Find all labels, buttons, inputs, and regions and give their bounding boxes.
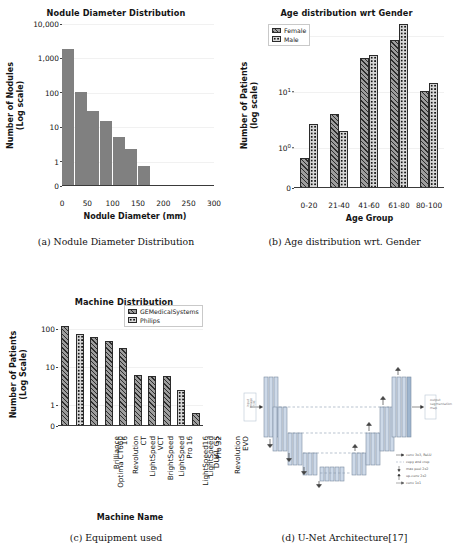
chart-a-bar bbox=[75, 92, 87, 186]
chart-a-bar bbox=[100, 121, 112, 186]
chart-c-ytick: 1 bbox=[50, 401, 58, 410]
chart-a-ytick: 10,000 bbox=[33, 20, 62, 29]
chart-age-gender: Age distribution wrt Gender Number of Pa… bbox=[232, 0, 457, 232]
legend-entry-female: Female bbox=[272, 27, 306, 34]
chart-a-bar bbox=[62, 49, 74, 187]
chart-a-xtick: 50 bbox=[83, 196, 92, 200]
chart-a-xtick: 0 bbox=[60, 196, 65, 200]
chart-b-bar-female bbox=[300, 158, 309, 188]
chart-c-bar bbox=[177, 390, 185, 426]
chart-a-ylabel: Number of Nodules (Log scale) bbox=[6, 51, 25, 161]
chart-b-xtick: 21-40 bbox=[328, 198, 349, 203]
unet-svg: input image tile output segmentation map… bbox=[240, 363, 454, 495]
legend-label-male: Male bbox=[284, 36, 299, 43]
chart-b-legend: Female Male bbox=[268, 24, 310, 46]
chart-b-ylabel: Number of Patients (log scale) bbox=[240, 51, 259, 161]
chart-c-xlabel: Machine Name bbox=[40, 513, 220, 522]
chart-c-ytick: 10 bbox=[46, 363, 58, 372]
chart-nodule-diameter: Nodule Diameter Distribution Number of N… bbox=[0, 0, 232, 232]
chart-machine-distribution: Machine Distribution Number of Patients … bbox=[0, 285, 232, 535]
chart-a-bar bbox=[113, 137, 125, 186]
chart-b-xtick: 80-100 bbox=[416, 198, 442, 203]
chart-a-bar bbox=[138, 166, 150, 187]
chart-b-ytick: 0 bbox=[286, 184, 294, 193]
panel-b-age-gender: Age distribution wrt Gender Number of Pa… bbox=[232, 0, 457, 250]
legend-swatch-ge-icon bbox=[128, 309, 137, 315]
legend-entry-philips: Philips bbox=[128, 317, 199, 324]
chart-b-xtick: 41-60 bbox=[358, 198, 379, 203]
unet-legend-conv11: conv 1x1 bbox=[406, 481, 421, 485]
chart-b-xtick: 0-20 bbox=[301, 198, 318, 203]
chart-a-ytick: 1 bbox=[54, 157, 62, 166]
chart-b-ytick-exp: 1 bbox=[288, 87, 291, 93]
unet-input-label-line3: tile bbox=[252, 400, 256, 405]
chart-b-bar-male bbox=[339, 131, 348, 188]
chart-c-ylabel: Number of Patients (Log Scale) bbox=[9, 320, 28, 430]
chart-a-xtick: 250 bbox=[182, 196, 196, 200]
chart-a-xtick: 200 bbox=[156, 196, 170, 200]
chart-a-ytick: 100 bbox=[45, 88, 62, 97]
chart-b-bar-female bbox=[390, 40, 399, 188]
panel-b-caption: (b) Age distribution wrt. Gender bbox=[232, 236, 457, 247]
unet-legend-upconv: up-conv 2x2 bbox=[406, 474, 426, 478]
chart-c-xtick: LightSpeedVCT bbox=[149, 436, 164, 476]
chart-c-bar bbox=[134, 375, 142, 426]
chart-c-xtick: DUAL GS bbox=[213, 436, 221, 468]
chart-c-bar bbox=[119, 348, 127, 426]
chart-a-ylabel-line2: (Log scale) bbox=[15, 51, 25, 161]
unet-architecture-diagram: input image tile output segmentation map… bbox=[240, 363, 454, 495]
chart-a-bars bbox=[62, 24, 214, 186]
panel-c-caption: (c) Equipment used bbox=[0, 532, 232, 543]
chart-b-bar-male bbox=[429, 83, 438, 188]
chart-a-ytick: 1,000 bbox=[38, 54, 62, 63]
chart-c-ylabel-line2: (Log Scale) bbox=[18, 320, 28, 430]
chart-a-bar bbox=[125, 149, 137, 186]
chart-c-xtick: BrightSpeed bbox=[168, 436, 176, 480]
panel-a-nodule-diameter: Nodule Diameter Distribution Number of N… bbox=[0, 0, 232, 250]
chart-b-bar-female bbox=[420, 91, 429, 188]
chart-c-bar bbox=[163, 376, 171, 426]
chart-a-xtick: 300 bbox=[207, 196, 221, 200]
figure-grid: Nodule Diameter Distribution Number of N… bbox=[0, 0, 457, 559]
unet-legend-copycrop: copy and crop bbox=[406, 460, 429, 464]
legend-swatch-male-icon bbox=[272, 36, 281, 42]
panel-c-machine-distribution: Machine Distribution Number of Patients … bbox=[0, 285, 232, 559]
legend-label-philips: Philips bbox=[140, 317, 160, 324]
legend-label-female: Female bbox=[284, 27, 306, 34]
chart-b-xlabel: Age Group bbox=[277, 214, 457, 223]
chart-a-xlabel: Nodule Diameter (mm) bbox=[40, 212, 230, 221]
chart-c-plot-area: 100 10 1 0 Optima CT660Brilliance16Revol… bbox=[58, 309, 203, 434]
chart-a-xtick: 150 bbox=[131, 196, 145, 200]
legend-entry-ge: GEMedicalSystems bbox=[128, 308, 199, 315]
chart-b-bar-male bbox=[399, 24, 408, 188]
chart-a-bar bbox=[87, 111, 99, 187]
panel-d-caption: (d) U-Net Architecture[17] bbox=[232, 532, 457, 543]
chart-a-plot-area: 10,000 1,000 100 10 1 0 0501001502002503… bbox=[62, 24, 214, 196]
legend-swatch-philips-icon bbox=[128, 317, 137, 323]
chart-a-ytick: 10 bbox=[50, 123, 62, 132]
chart-b-ytick-exp: 0 bbox=[288, 143, 291, 149]
chart-b-xaxis bbox=[294, 187, 444, 188]
chart-c-xtick: LightSpeedPro 16 bbox=[178, 436, 193, 476]
chart-b-bar-male bbox=[369, 55, 378, 188]
chart-a-xaxis bbox=[62, 185, 214, 186]
chart-b-title: Age distribution wrt Gender bbox=[242, 8, 451, 18]
chart-c-ylabel-line1: Number of Patients bbox=[9, 320, 19, 430]
chart-b-bar-female bbox=[360, 58, 369, 188]
chart-c-bar bbox=[61, 326, 69, 426]
panel-d-unet: input image tile output segmentation map… bbox=[232, 285, 457, 559]
chart-b-ylabel-line1: Number of Patients bbox=[240, 51, 250, 161]
chart-b-bar-male bbox=[309, 124, 318, 188]
chart-c-xtick: RevolutionCT bbox=[132, 436, 147, 474]
chart-a-title: Nodule Diameter Distribution bbox=[0, 8, 232, 18]
chart-b-ytick: 100 bbox=[278, 143, 294, 153]
chart-c-bar bbox=[148, 376, 156, 426]
chart-b-plot-area: 102 101 100 0 0-2021-4041-6061-8080-100 bbox=[294, 22, 444, 198]
chart-b-xtick: 61-80 bbox=[388, 198, 409, 203]
chart-b-bars bbox=[294, 22, 444, 188]
chart-c-ytick: 0 bbox=[50, 422, 58, 431]
chart-c-bar bbox=[105, 341, 113, 426]
chart-b-ytick: 101 bbox=[278, 87, 294, 97]
panel-a-caption: (a) Nodule Diameter Distribution bbox=[0, 236, 232, 247]
legend-label-ge: GEMedicalSystems bbox=[140, 308, 199, 315]
